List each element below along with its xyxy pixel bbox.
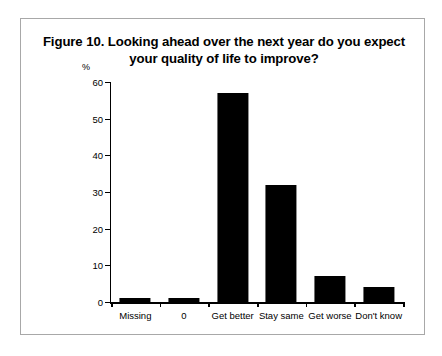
bar-series [111,82,403,302]
y-tick-label: 50 [92,113,103,124]
x-tick-label: Don't know [355,310,402,321]
y-tick-mark [105,192,110,193]
bar [363,287,394,302]
bar [168,298,199,302]
y-tick-mark [105,302,110,303]
y-tick-label: 30 [92,187,103,198]
x-tick-mark [208,302,210,307]
bar-slot [257,82,306,302]
y-tick-label: 20 [92,223,103,234]
x-tick-mark [403,302,405,307]
x-tick-label: Get worse [308,310,351,321]
y-tick-mark [105,265,110,266]
x-tick-label: Missing [119,310,151,321]
bar-slot [354,82,403,302]
bar-slot [160,82,209,302]
bar [120,298,151,302]
y-tick-label: 40 [92,150,103,161]
x-tick-label: 0 [181,310,186,321]
bar-slot [306,82,355,302]
y-tick-mark [105,155,110,156]
bar-slot [208,82,257,302]
x-tick-mark [354,302,356,307]
y-tick-mark [105,229,110,230]
figure-frame: Figure 10. Looking ahead over the next y… [20,18,425,335]
y-axis-unit-label: % [82,62,90,72]
x-tick-mark [257,302,259,307]
bar [217,93,248,302]
bar-slot [111,82,160,302]
x-tick-mark [160,302,162,307]
y-tick-mark [105,119,110,120]
plot-area: % 0102030405060 Missing0Get betterStay s… [110,82,403,303]
y-tick-label: 60 [92,77,103,88]
x-tick-mark [306,302,308,307]
x-tick-label: Get better [212,310,254,321]
y-tick-label: 0 [98,297,103,308]
x-tick-mark [111,302,113,307]
y-tick-label: 10 [92,260,103,271]
bar [266,185,297,302]
figure-title: Figure 10. Looking ahead over the next y… [39,33,409,67]
x-tick-label: Stay same [259,310,304,321]
y-tick-mark [105,82,110,83]
bar [314,276,345,302]
